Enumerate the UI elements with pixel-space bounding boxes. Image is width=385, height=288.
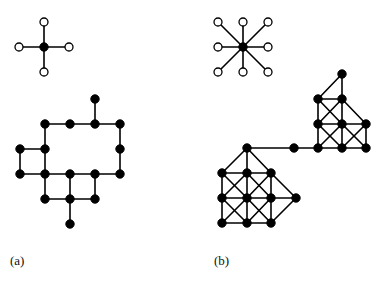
motif-center-node [239, 43, 247, 51]
graph-node [338, 120, 346, 128]
graph-node [91, 195, 99, 203]
graph-node [243, 169, 251, 177]
graph-node [243, 194, 251, 202]
graph-node [362, 120, 370, 128]
graph-node [314, 120, 322, 128]
graph-node [16, 170, 24, 178]
graph-node [66, 120, 74, 128]
motif-open-node [264, 43, 272, 51]
graph-edge [271, 173, 296, 198]
graph-node [116, 120, 124, 128]
graph-node [338, 144, 346, 152]
graph-node [41, 170, 49, 178]
motif-edge [218, 22, 243, 47]
graph-node [91, 95, 99, 103]
motif-open-node [15, 43, 23, 51]
motif-open-node [214, 68, 222, 76]
motif-open-node [214, 43, 222, 51]
motif-edge [243, 22, 268, 47]
graph-node [290, 144, 298, 152]
graph-node [338, 70, 346, 78]
graph-node [41, 120, 49, 128]
graph-node [267, 169, 275, 177]
graph-edge [247, 148, 271, 173]
panel-label-a: (a) [10, 253, 24, 269]
graph-node [292, 194, 300, 202]
graph-node [116, 145, 124, 153]
motif-edge [218, 47, 243, 72]
figure-svg [0, 0, 385, 288]
graph-node [338, 95, 346, 103]
graph-node [66, 195, 74, 203]
graph-node [243, 219, 251, 227]
motif-open-node [40, 18, 48, 26]
graph-node [41, 145, 49, 153]
graph-node [314, 95, 322, 103]
motif-open-node [40, 68, 48, 76]
graph-node [218, 194, 226, 202]
motif-center-node [40, 43, 48, 51]
graph-node [41, 195, 49, 203]
graph-node [243, 144, 251, 152]
panel-label-b: (b) [214, 253, 229, 269]
graph-node [362, 144, 370, 152]
graph-edge [271, 198, 296, 223]
motif-open-node [65, 43, 73, 51]
motif-open-node [264, 68, 272, 76]
motif-open-node [214, 18, 222, 26]
graph-node [116, 170, 124, 178]
graph-node [314, 144, 322, 152]
nodes-layer [15, 18, 370, 228]
graph-node [66, 220, 74, 228]
graph-edge [318, 74, 342, 99]
motif-edge [243, 47, 268, 72]
graph-node [66, 170, 74, 178]
graph-node [267, 219, 275, 227]
graph-node [91, 170, 99, 178]
graph-node [91, 120, 99, 128]
figure-container: (a) (b) [0, 0, 385, 288]
motif-open-node [239, 68, 247, 76]
motif-open-node [264, 18, 272, 26]
graph-edge [222, 148, 247, 173]
graph-node [218, 219, 226, 227]
graph-node [16, 145, 24, 153]
graph-node [267, 194, 275, 202]
graph-edge [342, 99, 366, 124]
motif-open-node [239, 18, 247, 26]
graph-node [218, 169, 226, 177]
